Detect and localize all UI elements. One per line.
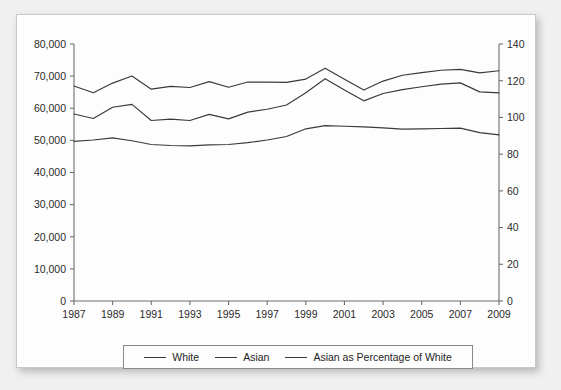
right-axis-tick-label: 120 bbox=[507, 75, 525, 87]
series-lines bbox=[74, 68, 499, 146]
x-axis-tick-label: 1991 bbox=[140, 308, 164, 320]
chart-legend: WhiteAsianAsian as Percentage of White bbox=[123, 345, 473, 369]
left-axis-tick-label: 20,000 bbox=[34, 231, 66, 243]
legend-entry-1[interactable]: Asian bbox=[215, 351, 269, 363]
chart-svg: 010,00020,00030,00040,00050,00060,00070,… bbox=[17, 15, 537, 369]
x-axis-tick-label: 1987 bbox=[62, 308, 86, 320]
right-axis-tick-label: 20 bbox=[507, 258, 519, 270]
x-axis-tick-label: 1997 bbox=[256, 308, 280, 320]
line-chart: 010,00020,00030,00040,00050,00060,00070,… bbox=[17, 15, 537, 369]
x-axis-tick-label: 1989 bbox=[101, 308, 125, 320]
x-axis: 1987198919911993199519971999200120032005… bbox=[62, 301, 511, 320]
legend-line-swatch-icon bbox=[144, 357, 166, 358]
left-axis-tick-label: 50,000 bbox=[34, 134, 66, 146]
x-axis-tick-label: 2003 bbox=[371, 308, 395, 320]
left-axis-tick-label: 30,000 bbox=[34, 198, 66, 210]
right-axis-tick-label: 60 bbox=[507, 185, 519, 197]
legend-entry-0[interactable]: White bbox=[144, 351, 199, 363]
right-axis-tick-label: 0 bbox=[507, 295, 513, 307]
left-axis-tick-label: 70,000 bbox=[34, 70, 66, 82]
x-axis-tick-label: 2001 bbox=[333, 308, 357, 320]
legend-label: Asian bbox=[243, 351, 269, 363]
legend-label: White bbox=[172, 351, 199, 363]
left-axis-tick-label: 40,000 bbox=[34, 166, 66, 178]
series-line-2 bbox=[74, 68, 499, 93]
chart-card: 010,00020,00030,00040,00050,00060,00070,… bbox=[16, 14, 536, 368]
right-axis-tick-label: 80 bbox=[507, 148, 519, 160]
x-axis-tick-label: 2009 bbox=[487, 308, 511, 320]
x-axis-tick-label: 1993 bbox=[178, 308, 202, 320]
series-line-0 bbox=[74, 126, 499, 146]
right-axis-tick-label: 100 bbox=[507, 111, 525, 123]
left-y-axis: 010,00020,00030,00040,00050,00060,00070,… bbox=[34, 38, 74, 307]
legend-line-swatch-icon bbox=[215, 357, 237, 358]
right-axis-tick-label: 40 bbox=[507, 221, 519, 233]
right-y-axis: 020406080100120140 bbox=[499, 38, 525, 307]
legend-label: Asian as Percentage of White bbox=[313, 351, 451, 363]
x-axis-tick-label: 2007 bbox=[449, 308, 473, 320]
x-axis-tick-label: 1999 bbox=[294, 308, 318, 320]
series-line-1 bbox=[74, 79, 499, 121]
right-axis-tick-label: 140 bbox=[507, 38, 525, 50]
left-axis-tick-label: 60,000 bbox=[34, 102, 66, 114]
x-axis-tick-label: 2005 bbox=[410, 308, 434, 320]
legend-line-swatch-icon bbox=[285, 357, 307, 358]
x-axis-tick-label: 1995 bbox=[217, 308, 241, 320]
legend-entry-2[interactable]: Asian as Percentage of White bbox=[285, 351, 451, 363]
left-axis-tick-label: 0 bbox=[60, 295, 66, 307]
left-axis-tick-label: 10,000 bbox=[34, 263, 66, 275]
left-axis-tick-label: 80,000 bbox=[34, 38, 66, 50]
